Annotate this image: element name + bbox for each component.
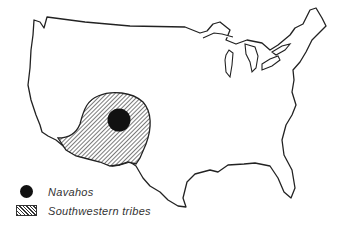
- us-outline: [28, 8, 326, 207]
- legend-item-southwestern-tribes: Southwestern tribes: [16, 201, 151, 220]
- navahos-area: [108, 109, 131, 132]
- legend: Navahos Southwestern tribes: [16, 182, 151, 220]
- legend-label: Navahos: [48, 186, 94, 198]
- hatched-box-icon: [16, 203, 40, 219]
- legend-item-navahos: Navahos: [16, 182, 151, 201]
- black-dot-icon: [16, 184, 40, 200]
- legend-label: Southwestern tribes: [48, 205, 151, 217]
